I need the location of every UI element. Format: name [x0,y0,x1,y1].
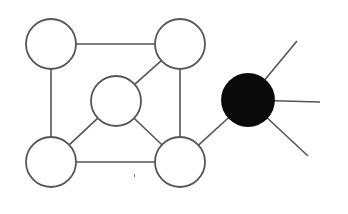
node-top-left [26,19,76,69]
node-top-right [155,19,205,69]
dangling-edge-3 [267,118,308,156]
node-center [91,76,141,126]
edge-n-center-n-bottom-left [69,118,98,145]
graph-diagram [0,0,348,214]
stray-mark [134,174,135,177]
dangling-edge-1 [265,41,297,80]
edge-n-bottom-right-n-black [198,118,228,146]
edge-n-center-n-bottom-right [134,118,162,145]
edge-n-center-n-top-right [135,61,162,85]
artifact-layer [134,174,135,177]
node-bottom-left [26,137,76,187]
dangling-edge-2 [274,101,320,102]
graph-canvas [0,0,348,214]
node-bottom-right [155,137,205,187]
highlighted-node [222,74,274,126]
